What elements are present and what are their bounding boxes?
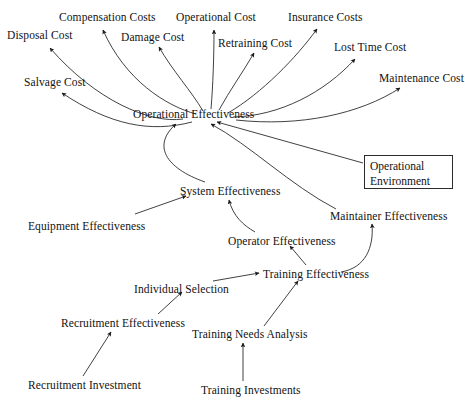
edge-training-needs-analysis-to-training-effectiveness <box>264 281 298 326</box>
node-compensation-costs: Compensation Costs <box>59 11 156 24</box>
node-maintainer-effectiveness: Maintainer Effectiveness <box>330 210 447 223</box>
node-maintenance-cost: Maintenance Cost <box>379 72 464 85</box>
edge-operational-environment-to-operational-effectiveness <box>217 122 363 163</box>
node-salvage-cost: Salvage Cost <box>24 76 86 89</box>
edge-layer <box>0 0 465 406</box>
edge-operational-effectiveness-to-operational-cost <box>211 30 214 109</box>
node-operational-cost: Operational Cost <box>176 11 256 24</box>
edge-equipment-effectiveness-to-system-effectiveness <box>135 196 186 214</box>
node-retraining-cost: Retraining Cost <box>218 37 292 50</box>
node-training-effectiveness: Training Effectiveness <box>263 268 369 281</box>
node-operator-effectiveness: Operator Effectiveness <box>228 235 336 248</box>
edge-system-effectiveness-to-operational-effectiveness <box>164 124 205 182</box>
node-operational-environment-box: Operational Environment <box>364 155 453 189</box>
node-damage-cost: Damage Cost <box>121 31 184 44</box>
node-lost-time-cost: Lost Time Cost <box>334 41 406 54</box>
node-recruitment-effectiveness: Recruitment Effectiveness <box>61 317 185 330</box>
edge-operator-effectiveness-to-system-effectiveness <box>229 200 255 232</box>
operational-environment-line-2: Environment <box>370 174 447 189</box>
node-equipment-effectiveness: Equipment Effectiveness <box>28 220 145 233</box>
node-system-effectiveness: System Effectiveness <box>180 185 280 198</box>
node-disposal-cost: Disposal Cost <box>7 29 73 42</box>
influence-diagram-canvas: Disposal Cost Compensation Costs Damage … <box>0 0 465 406</box>
edge-operational-effectiveness-to-retraining-cost <box>219 53 254 110</box>
node-individual-selection: Individual Selection <box>134 283 229 296</box>
edge-individual-selection-to-training-effectiveness <box>213 273 259 281</box>
edge-training-effectiveness-to-operator-effectiveness <box>290 246 306 265</box>
node-operational-effectiveness: Operational Effectiveness <box>133 108 254 121</box>
operational-environment-line-1: Operational <box>370 159 447 174</box>
node-recruitment-investment: Recruitment Investment <box>28 379 141 392</box>
node-training-needs-analysis: Training Needs Analysis <box>192 328 308 341</box>
edge-training-effectiveness-to-maintainer-effectiveness <box>341 224 372 272</box>
node-training-investments: Training Investments <box>201 384 301 397</box>
node-insurance-costs: Insurance Costs <box>288 11 363 24</box>
edge-operational-effectiveness-to-maintenance-cost <box>236 88 400 122</box>
edge-recruitment-investment-to-recruitment-effectiveness <box>83 332 111 376</box>
